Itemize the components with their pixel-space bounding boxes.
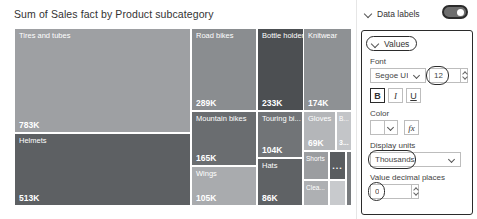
tile-label: Wings <box>196 169 217 179</box>
treemap-tile-b[interactable]: B... 3... <box>336 111 352 151</box>
tile-label: Gloves <box>308 114 331 124</box>
tile-label: Mountain bikes <box>196 114 246 124</box>
app-screen: Sum of Sales fact by Product subcategory… <box>0 0 477 219</box>
decimal-places-label: Value decimal places <box>370 173 445 182</box>
treemap-visual: Sum of Sales fact by Product subcategory… <box>0 0 356 219</box>
tile-ellipsis: ... <box>332 161 343 171</box>
values-panel: Values Font Segoe UI 12 B I U <box>361 30 473 215</box>
tile-value: 165K <box>196 153 216 163</box>
tile-label: Touring bi... <box>262 114 301 124</box>
treemap-tile-bottle-holder[interactable]: Bottle holder 233K <box>257 28 307 111</box>
decimal-places-value: 0 <box>375 187 379 196</box>
tile-label: Tires and tubes <box>19 31 70 41</box>
treemap-tile-cleaners[interactable]: Clea... <box>303 180 329 206</box>
font-style-buttons: B I U <box>370 88 424 103</box>
toggle-knob <box>457 9 464 16</box>
section-data-labels-label: Data labels <box>377 9 420 19</box>
treemap-tile-unlabeled-1[interactable] <box>329 180 346 206</box>
spinner-down-icon[interactable] <box>413 190 419 196</box>
treemap-canvas[interactable]: Tires and tubes 783K Helmets 513K Road b… <box>14 28 352 206</box>
tile-label: Helmets <box>19 136 47 146</box>
tile-label: Bottle holder <box>262 31 304 41</box>
treemap-tile-hats[interactable]: Hats 86K <box>257 158 303 206</box>
display-units-value: Thousands <box>375 155 415 164</box>
treemap-tile-helmets[interactable]: Helmets 513K <box>14 133 191 206</box>
treemap-tile-unlabeled-2[interactable] <box>346 151 352 206</box>
treemap-tile-wings[interactable]: Wings 105K <box>191 166 257 206</box>
font-size-input[interactable]: 12 <box>429 68 461 83</box>
font-family-value: Segoe UI <box>375 71 408 80</box>
bold-button[interactable]: B <box>370 88 385 103</box>
tile-value: 513K <box>19 193 39 203</box>
treemap-tile-knitwear[interactable]: Knitwear 174K <box>303 28 352 111</box>
tile-label: Hats <box>262 161 277 171</box>
tile-value: 289K <box>196 98 216 108</box>
tile-value: 69K <box>308 138 324 148</box>
tile-value: 783K <box>19 120 39 130</box>
tile-label: Clea... <box>306 183 325 193</box>
treemap-tile-touring-bikes[interactable]: Touring bi... 104K <box>257 111 303 158</box>
color-dropdown-button[interactable] <box>385 120 398 135</box>
format-pane: Data labels Values Font Segoe UI 12 <box>356 0 477 219</box>
decimal-places-spinner[interactable] <box>412 184 419 199</box>
italic-button[interactable]: I <box>388 88 403 103</box>
treemap-tile-shorts[interactable]: Shorts <box>303 151 329 180</box>
tile-value: 3... <box>339 138 349 148</box>
display-units-select[interactable]: Thousands <box>370 152 461 167</box>
tile-label: B... <box>339 114 349 124</box>
underline-button[interactable]: U <box>406 88 421 103</box>
treemap-tile-more[interactable]: ... <box>329 151 346 180</box>
font-family-select[interactable]: Segoe UI <box>370 68 426 83</box>
chevron-down-icon <box>414 73 420 79</box>
color-fx-button[interactable]: fx <box>404 120 419 135</box>
font-size-spinner[interactable] <box>461 68 468 83</box>
tile-value: 104K <box>262 145 282 155</box>
section-values[interactable]: Values <box>366 36 417 51</box>
chevron-down-icon[interactable] <box>363 8 374 19</box>
chevron-down-icon[interactable] <box>370 38 381 49</box>
decimal-places-input[interactable]: 0 <box>370 184 412 199</box>
tile-label: Road bikes <box>196 31 234 41</box>
display-units-label: Display units <box>370 141 415 150</box>
treemap-tile-road-bikes[interactable]: Road bikes 289K <box>191 28 257 111</box>
visual-title: Sum of Sales fact by Product subcategory <box>14 8 214 20</box>
font-size-value: 12 <box>434 71 443 80</box>
treemap-tile-tires-and-tubes[interactable]: Tires and tubes 783K <box>14 28 191 133</box>
spinner-down-icon[interactable] <box>462 74 468 80</box>
chevron-down-icon <box>449 157 455 163</box>
treemap-tile-mountain-bikes[interactable]: Mountain bikes 165K <box>191 111 257 166</box>
treemap-tile-gloves[interactable]: Gloves 69K <box>303 111 336 151</box>
tile-value: 86K <box>262 193 278 203</box>
section-values-label: Values <box>384 39 409 49</box>
tile-label: Shorts <box>306 154 325 164</box>
tile-value: 174K <box>308 98 328 108</box>
color-label: Color <box>370 109 389 118</box>
font-label: Font <box>370 57 386 66</box>
tile-label: Knitwear <box>308 31 337 41</box>
tile-value: 233K <box>262 98 282 108</box>
tile-value: 105K <box>196 193 216 203</box>
color-swatch[interactable] <box>370 120 385 135</box>
data-labels-toggle[interactable] <box>442 5 468 19</box>
